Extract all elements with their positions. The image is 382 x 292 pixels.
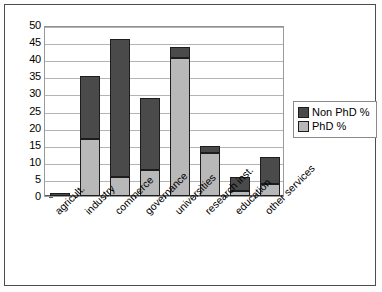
bar-segment-non-phd: [80, 76, 100, 139]
y-axis-tick-label: 0: [19, 191, 41, 202]
bar-segment-non-phd: [200, 146, 220, 153]
bar-segment-non-phd: [110, 39, 130, 177]
scanned-page: 05101520253035404550 agricult.industryco…: [0, 0, 382, 292]
legend-item-non-phd: Non PhD %: [298, 105, 372, 119]
y-axis-tick-label: 20: [19, 123, 41, 134]
y-axis-tick-label: 45: [19, 37, 41, 48]
legend-item-phd: PhD %: [298, 119, 372, 133]
legend-label-non-phd: Non PhD %: [312, 107, 369, 118]
y-axis-tick-label: 35: [19, 71, 41, 82]
legend-swatch-non-phd-icon: [298, 107, 309, 118]
gridline: [45, 61, 283, 62]
y-axis-tick-label: 10: [19, 157, 41, 168]
page-border: 05101520253035404550 agricult.industryco…: [4, 4, 376, 286]
y-axis: 05101520253035404550: [13, 26, 41, 197]
chart-legend: Non PhD % PhD %: [293, 101, 377, 138]
bar-industry: [80, 76, 100, 196]
y-axis-tick: [49, 197, 53, 198]
legend-swatch-phd-icon: [298, 121, 309, 132]
legend-label-phd: PhD %: [312, 121, 346, 132]
bar-segment-non-phd: [170, 47, 190, 58]
y-axis-tick-label: 5: [19, 174, 41, 185]
y-axis-tick-label: 30: [19, 88, 41, 99]
gridline: [45, 44, 283, 45]
bar-commerce: [110, 39, 130, 196]
x-axis-labels: agricult.industrycommercegovernanceunive…: [44, 201, 294, 287]
y-axis-tick-label: 50: [19, 20, 41, 31]
y-axis-tick-label: 25: [19, 106, 41, 117]
bar-segment-non-phd: [140, 98, 160, 171]
y-axis-tick-label: 15: [19, 140, 41, 151]
stacked-bar-chart: 05101520253035404550 agricult.industryco…: [5, 5, 377, 287]
y-axis-tick-label: 40: [19, 54, 41, 65]
gridline: [45, 27, 283, 28]
